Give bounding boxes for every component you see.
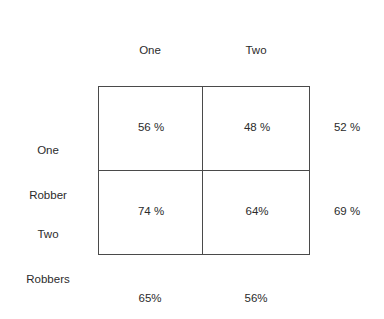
matrix-horizontal-divider bbox=[99, 170, 309, 171]
matrix-box: 56 % 48 % 74 % 64% bbox=[98, 86, 310, 255]
row-header-two-robbers-line1: Two bbox=[6, 227, 90, 242]
column-header-one-customer-line1: One bbox=[98, 43, 202, 58]
matrix-cell-two-robbers-two-customers: 64% bbox=[205, 204, 309, 219]
row-header-two-robbers: Two Robbers bbox=[6, 197, 90, 317]
row-header-two-robbers-line2: Robbers bbox=[6, 272, 90, 287]
column-header-two-customers-line1: Two bbox=[204, 43, 308, 58]
contingency-matrix-figure: One Customer Two Customers One Robber Tw… bbox=[0, 0, 384, 319]
matrix-cell-two-robbers-one-customer: 74 % bbox=[99, 204, 203, 219]
column-margin-one-customer: 65% bbox=[98, 291, 202, 306]
column-margin-two-customers: 56% bbox=[204, 291, 308, 306]
row-margin-one-robber: 52 % bbox=[310, 120, 384, 135]
row-margin-two-robbers: 69 % bbox=[310, 204, 384, 219]
matrix-cell-one-robber-one-customer: 56 % bbox=[99, 120, 203, 135]
matrix-cell-one-robber-two-customers: 48 % bbox=[205, 120, 309, 135]
row-header-one-robber-line1: One bbox=[6, 143, 90, 158]
